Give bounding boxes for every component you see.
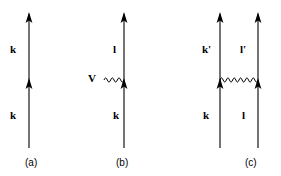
panel-a-graphics bbox=[26, 12, 33, 148]
momentum-label-c-k-prime: k' bbox=[202, 44, 211, 55]
momentum-label-a-lower: k bbox=[10, 110, 16, 121]
interaction-wavy-line-c bbox=[220, 78, 258, 82]
momentum-label-c-l: l bbox=[242, 110, 245, 121]
interaction-label-v: V bbox=[88, 73, 96, 84]
interaction-wavy-line-b bbox=[104, 78, 124, 82]
momentum-label-a-upper: k bbox=[10, 44, 16, 55]
panel-caption-b: (b) bbox=[116, 158, 128, 168]
momentum-label-b-lower: k bbox=[113, 110, 119, 121]
momentum-label-b-upper: l bbox=[113, 44, 116, 55]
momentum-label-c-l-prime: l' bbox=[240, 44, 246, 55]
panel-c-graphics bbox=[217, 12, 262, 148]
diagram-canvas bbox=[0, 0, 281, 176]
figure-root: k k (a) l k V (b) k' l' k l (c) bbox=[0, 0, 281, 176]
panel-caption-a: (a) bbox=[25, 158, 37, 168]
panel-caption-c: (c) bbox=[245, 158, 257, 168]
panel-b-graphics bbox=[104, 12, 127, 148]
momentum-label-c-k: k bbox=[203, 110, 209, 121]
